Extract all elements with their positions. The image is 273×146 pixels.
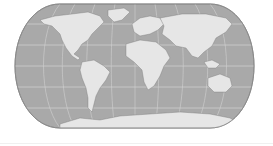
- bottom-divider: [0, 143, 273, 144]
- world-map: [0, 0, 273, 146]
